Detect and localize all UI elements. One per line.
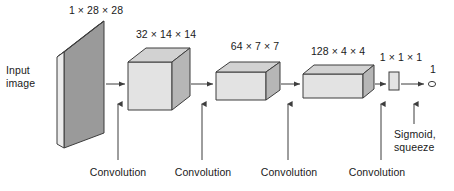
operation-label-sigmoid-squeeze: Sigmoid, squeeze [394,128,436,154]
sigmoid-squeeze-line2: squeeze [394,141,436,154]
operation-label-convolution-1: Convolution [90,166,147,179]
shape-label-feature-map-1: 32 × 14 × 14 [136,28,196,41]
architecture-diagram-svg [0,0,454,191]
output-neuron-icon [428,81,435,86]
sigmoid-squeeze-line1: Sigmoid, [394,128,436,141]
feature-map-1-front-face [128,62,172,110]
feature-map-3-box [303,65,374,98]
figure-canvas: Input image 1 × 28 × 28 32 × 14 × 14 64 … [0,0,454,191]
input-plane-front-face [64,21,104,148]
output-value-label: 1 [430,63,436,76]
operation-label-convolution-3: Convolution [261,166,318,179]
feature-map-3-top-face [303,65,374,74]
input-plane-side-face [57,52,64,148]
feature-map-2-box [216,62,280,100]
shape-label-feature-map-2: 64 × 7 × 7 [231,40,279,53]
feature-map-1-box [128,48,190,110]
feature-map-4-box [389,72,399,90]
operation-label-convolution-2: Convolution [175,166,232,179]
shape-label-feature-map-3: 128 × 4 × 4 [311,45,365,58]
shape-label-input-image-plane: 1 × 28 × 28 [69,4,123,17]
feature-map-2-front-face [216,72,266,100]
input-image-label-line1: Input [6,64,35,77]
input-image-label-line2: image [6,77,35,90]
input-image-label: Input image [6,64,35,90]
feature-map-3-front-face [303,74,363,98]
input-image-plane [57,21,104,148]
feature-map-4-front-face [389,72,399,90]
shape-label-feature-map-4: 1 × 1 × 1 [380,51,422,64]
operation-label-convolution-4: Convolution [349,166,406,179]
